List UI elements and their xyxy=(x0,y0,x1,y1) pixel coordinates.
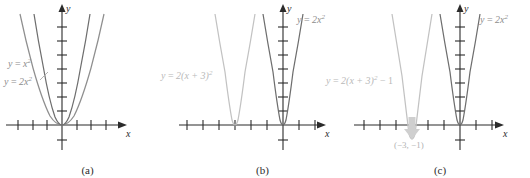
panel-a: x y y = x2 y = 2x2 (a) xyxy=(0,0,175,178)
label-b-y-equals-2x-squared: y = 2x2 xyxy=(297,14,325,25)
label-y-equals-2-x-plus-3-squared-minus-1: y = 2(x + 3)2 − 1 xyxy=(326,75,393,86)
panel-a-plot xyxy=(0,0,175,178)
label-b2-exponent: 2 xyxy=(209,69,213,77)
label-b1-exponent: 2 xyxy=(322,13,326,21)
label-y-equals-2x-squared: y = 2x2 xyxy=(4,76,32,87)
panel-a-axis-arrowheads xyxy=(59,4,128,129)
label-y-equals-x-squared: y = x2 xyxy=(8,58,31,69)
label-c1-body: 2x xyxy=(495,14,504,25)
panel-c-y-axis-label: y xyxy=(464,3,468,14)
label-b1-body: 2x xyxy=(312,14,321,25)
parabola-transformation-figure: x y y = x2 y = 2x2 (a) xyxy=(0,0,530,178)
panel-a-y-axis-label: y xyxy=(66,3,70,14)
panel-c-caption: (c) xyxy=(350,164,530,176)
label-a1-eq: = xyxy=(12,58,23,69)
panel-a-x-axis-label: x xyxy=(126,128,130,139)
label-a2-eq: = xyxy=(8,76,19,87)
label-y-equals-2-x-plus-3-squared: y = 2(x + 3)2 xyxy=(161,70,212,81)
label-c2-eq: = xyxy=(330,75,341,86)
label-c2-tail: − 1 xyxy=(377,75,393,86)
label-b2-eq: = xyxy=(165,70,176,81)
curve-y-2-x-plus-3-squared xyxy=(215,14,255,125)
panel-b-plot xyxy=(175,0,350,178)
label-b2-body: 2(x + 3) xyxy=(176,70,209,81)
downward-shift-arrow xyxy=(404,117,420,139)
panel-b: x y y = 2x2 y = 2(x + 3)2 (b) xyxy=(175,0,350,178)
label-c-y-equals-2x-squared: y = 2x2 xyxy=(480,14,508,25)
label-c1-eq: = xyxy=(484,14,495,25)
panel-b-caption: (b) xyxy=(175,164,350,176)
label-a1-exponent: 2 xyxy=(28,57,32,65)
label-a2-body: 2x xyxy=(19,76,28,87)
panel-b-y-axis-label: y xyxy=(287,3,291,14)
label-b1-eq: = xyxy=(301,14,312,25)
panel-c: x y y = 2x2 y = 2(x + 3)2 − 1 (−3, −1) (… xyxy=(350,0,530,178)
label-a2-exponent: 2 xyxy=(29,75,33,83)
label-c1-exponent: 2 xyxy=(505,13,509,21)
panel-c-x-axis-label: x xyxy=(503,128,507,139)
panel-b-x-axis-label: x xyxy=(325,128,329,139)
label-c2-body: 2(x + 3) xyxy=(341,75,374,86)
panel-a-caption: (a) xyxy=(0,164,175,176)
panel-c-plot xyxy=(350,0,530,178)
vertex-point-label: (−3, −1) xyxy=(394,140,424,150)
